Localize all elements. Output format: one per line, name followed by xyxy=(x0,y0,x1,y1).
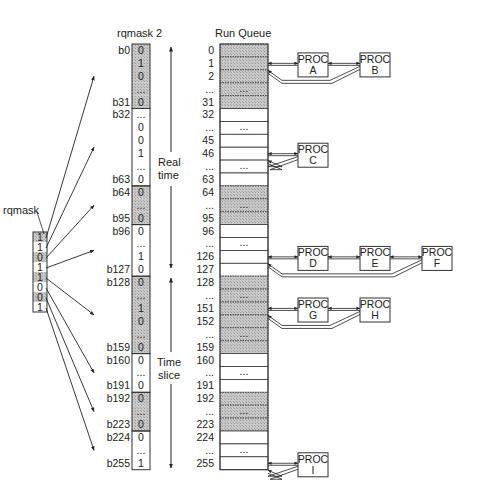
run-queue-row: ...... xyxy=(205,120,268,134)
run-queue-index: 191 xyxy=(196,379,214,391)
proc-box-e: PROCE xyxy=(360,246,391,270)
rqmask2-bit-value: ... xyxy=(137,108,146,120)
rqmask2-bit-value: ... xyxy=(137,160,146,172)
run-queue-column: 012......3132......4546......6364......9… xyxy=(196,44,268,470)
rqmask2-bit-value: ... xyxy=(137,444,146,456)
run-queue-index: 127 xyxy=(196,263,214,275)
rqmask2-bit-label: b96 xyxy=(112,225,130,237)
rqmask2-bit-label: b224 xyxy=(107,431,131,443)
rqmask2-row: ... xyxy=(132,160,150,173)
run-queue-index: ... xyxy=(205,121,214,133)
proc-box-c: PROCC xyxy=(298,143,329,167)
run-queue-index: 64 xyxy=(202,186,214,198)
run-queue-row: 126 xyxy=(196,250,268,263)
run-queue-title: Run Queue xyxy=(215,27,271,39)
run-queue-row: 63 xyxy=(202,173,268,186)
proc-box-b: PROCB xyxy=(360,53,391,77)
rqmask2-column: 0b010...0b31...b32001...0b630b64...0b950… xyxy=(107,44,150,470)
run-queue-row: ...... xyxy=(205,404,268,418)
proc-id: E xyxy=(371,257,378,269)
run-queue-index: 255 xyxy=(196,457,214,469)
rqmask2-row: 0 xyxy=(132,315,150,328)
proc-box-f: PROCF xyxy=(422,246,453,270)
run-queue-row: 151 xyxy=(196,302,268,315)
rqmask2-bit-value: 0 xyxy=(138,225,144,237)
rqmask2-row: ... xyxy=(132,289,150,302)
run-queue-row: 127 xyxy=(196,263,268,276)
rqmask2-row: 0b127 xyxy=(107,263,150,276)
proc-id: F xyxy=(434,257,440,269)
run-queue-ellipsis: ... xyxy=(240,327,249,339)
run-queue-index: 45 xyxy=(202,134,214,146)
run-queue-row: 128 xyxy=(196,276,268,289)
rqmask2-bit-label: b191 xyxy=(107,379,131,391)
rqmask2-bit-label: b160 xyxy=(107,354,131,366)
run-queue-row: ...... xyxy=(205,198,268,212)
run-queue-row: 224 xyxy=(196,431,268,444)
rqmask2-bit-label: b63 xyxy=(112,173,130,185)
run-queue-index: 192 xyxy=(196,392,214,404)
run-queue-index: ... xyxy=(205,199,214,211)
rqmask2-title: rqmask 2 xyxy=(117,27,162,39)
rqmask2-row: 0b31 xyxy=(112,96,150,109)
rqmask2-row: ... xyxy=(132,444,150,457)
time-slice-label-1: Time xyxy=(157,356,181,368)
proc-box-g: PROCG xyxy=(298,298,329,322)
rqmask2-bit-value: 0 xyxy=(138,392,144,404)
rqmask2-bit-value: 0 xyxy=(138,276,144,288)
run-queue-row: 2 xyxy=(208,70,268,83)
proc-box-i: PROCI xyxy=(298,453,329,477)
proc-id: D xyxy=(309,257,317,269)
rqmask2-bit-value: 1 xyxy=(138,57,144,69)
real-time-label-2: time xyxy=(158,169,179,181)
rqmask2-row: ... xyxy=(132,328,150,341)
rqmask2-row: 0b96 xyxy=(112,225,150,238)
rqmask2-bit-value: 1 xyxy=(138,457,144,469)
rqmask2-bit-value: ... xyxy=(137,328,146,340)
rqmask2-bit-value: 0 xyxy=(138,70,144,82)
rqmask2-bit-value: 0 xyxy=(138,212,144,224)
run-queue-index: ... xyxy=(205,237,214,249)
rqmask2-row: 0b192 xyxy=(107,392,150,405)
rqmask2-bit-label: b127 xyxy=(107,263,131,275)
run-queue-row: 159 xyxy=(196,341,268,354)
run-queue-index: 160 xyxy=(196,354,214,366)
run-queue-row: 152 xyxy=(196,315,268,328)
rqmask2-bit-value: 1 xyxy=(138,147,144,159)
rqmask2-bit-value: 0 xyxy=(138,121,144,133)
rqmask2-bit-value: ... xyxy=(137,199,146,211)
time-slice-label-2: slice xyxy=(158,369,180,381)
rqmask2-bit-label: b128 xyxy=(107,276,131,288)
run-queue-row: 45 xyxy=(202,134,268,147)
rqmask2-bit-label: b159 xyxy=(107,341,131,353)
rqmask2-bit-label: b31 xyxy=(112,96,130,108)
run-queue-ellipsis: ... xyxy=(240,288,249,300)
rqmask2-bit-value: 0 xyxy=(138,96,144,108)
proc-id: A xyxy=(309,64,316,76)
run-queue-index: 31 xyxy=(202,96,214,108)
rqmask2-bit-value: 0 xyxy=(138,418,144,430)
run-queue-row: 32 xyxy=(202,108,268,121)
run-queue-index: ... xyxy=(205,328,214,340)
rqmask2-bit-value: ... xyxy=(137,83,146,95)
rqmask2-row: 1 xyxy=(132,147,150,160)
proc-id: H xyxy=(371,309,379,321)
run-queue-ellipsis: ... xyxy=(240,404,249,416)
rqmask-bit-value: 1 xyxy=(37,301,43,313)
rqmask2-row: ... xyxy=(132,237,150,250)
run-queue-row: 0 xyxy=(208,44,268,57)
run-queue-index: 1 xyxy=(208,57,214,69)
run-queue-row: ...... xyxy=(205,443,268,457)
rqmask2-row: 0 xyxy=(132,70,150,83)
rqmask2-bit-value: 0 xyxy=(138,173,144,185)
rqmask2-row: ... xyxy=(132,366,150,379)
run-queue-ellipsis: ... xyxy=(240,159,249,171)
run-queue-index: ... xyxy=(205,444,214,456)
rqmask2-bit-value: 0 xyxy=(138,431,144,443)
rqmask-box: 11011001 xyxy=(33,212,47,313)
run-queue-ellipsis: ... xyxy=(240,120,249,132)
rqmask2-row: 1b255 xyxy=(107,457,150,470)
run-queue-ellipsis: ... xyxy=(240,236,249,248)
rqmask2-bit-value: 0 xyxy=(138,186,144,198)
rqmask2-bit-label: b255 xyxy=(107,457,131,469)
